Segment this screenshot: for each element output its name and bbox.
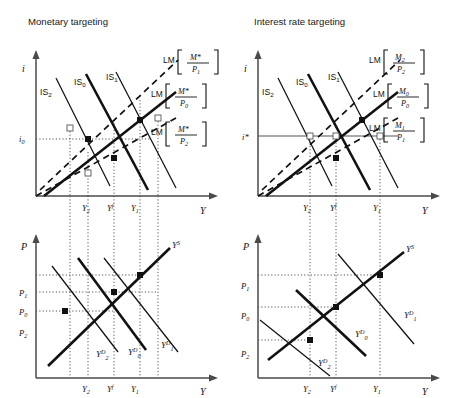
lm-label-P1: LM M* P1 [163, 50, 218, 75]
aggregate-demand-curve-0 [296, 290, 366, 356]
lm-denominator: P2 [396, 65, 405, 75]
aggregate-demand-curve-0 [78, 258, 146, 350]
equilibrium-marker-upper [137, 272, 143, 278]
bracket-right [424, 84, 428, 108]
demand-label-2: YD2 [96, 349, 108, 362]
svg-text:YD1: YD1 [161, 340, 173, 353]
bracket-left [384, 50, 388, 74]
i0-sub: 0 [21, 139, 24, 145]
svg-text:YD0: YD0 [355, 329, 367, 342]
axes-bottom-right [254, 234, 440, 382]
lm-text: LM [369, 123, 381, 133]
tick-P1: P1 [18, 288, 27, 299]
lm-label-M2P2: LM M2 P2 [369, 50, 424, 75]
demand-label-0: YD0 [355, 329, 367, 342]
x-axis-label: Y [200, 386, 207, 397]
y-axis-arrow [32, 234, 39, 243]
lm-denominator: P1 [191, 65, 200, 75]
panel-title-monetary-targeting: Monetary targeting [28, 16, 108, 27]
y-tick-i0: i0 [19, 134, 24, 145]
svg-text:i*: i* [242, 132, 249, 142]
guides-top-left [36, 100, 158, 196]
x-ticks-top-left: Y2 Yf Y1 [82, 203, 139, 214]
bracket-right [202, 84, 206, 108]
lm-numerator: M* [177, 87, 190, 96]
tick-Y2: Y2 [303, 384, 311, 395]
lm-numerator: M1 [394, 121, 405, 131]
equilibrium-marker-P1 [377, 272, 383, 278]
tick-P2: P2 [18, 328, 27, 339]
lm-text: LM [163, 55, 175, 65]
y-axis-label: i [244, 63, 247, 74]
lm-denominator: P0 [179, 99, 188, 109]
equilibrium-marker-open-left [307, 133, 313, 139]
tick-P0: P0 [18, 307, 27, 318]
svg-text:IS2: IS2 [40, 87, 52, 98]
is-curve-2 [56, 78, 110, 186]
x-axis-arrow [431, 192, 440, 199]
equilibrium-marker-open-low [85, 170, 91, 176]
svg-text:IS0: IS0 [74, 77, 86, 88]
tick-Yf: Yf [330, 384, 338, 394]
svg-text:YD0: YD0 [128, 347, 140, 360]
y-axis-arrow [254, 234, 261, 243]
y-axis-label: P [242, 241, 249, 252]
tick-Y1: Y1 [131, 203, 139, 214]
equilibrium-marker-filled-right [137, 117, 143, 123]
lm-curve-M0P0-solid [266, 92, 398, 196]
x-ticks-top-right: Y2 Yf Y1 [303, 203, 381, 214]
lm-label-P2: LM M* P2 [151, 122, 206, 147]
axes-top-left [32, 50, 218, 200]
equilibrium-marker-filled-right [359, 117, 365, 123]
panel-top-left: Monetary targeting i Y i0 [19, 16, 218, 216]
tick-Yf: Yf [330, 203, 338, 213]
economics-figure: Monetary targeting i Y i0 [0, 0, 458, 398]
lm-denominator: P0 [400, 99, 409, 109]
is-text: IS [106, 72, 114, 82]
lm-numerator: M* [177, 125, 190, 134]
panel-top-right: Interest rate targeting i Y i* [242, 16, 440, 216]
is-curve-0 [308, 74, 370, 190]
is-sub: 1 [114, 76, 118, 83]
is-curve-2 [278, 78, 332, 186]
lm-curve-P0-solid [44, 92, 176, 196]
p-sub: 2 [185, 141, 188, 147]
aggregate-demand-curve-1 [338, 254, 414, 344]
tick-Y2: Y2 [82, 384, 90, 395]
bracket-right [202, 122, 206, 146]
equilibrium-marker-open-right [377, 133, 383, 139]
equilibrium-marker-open-mid [333, 133, 339, 139]
aggregate-supply-curve [48, 248, 170, 366]
bracket-right [420, 118, 424, 142]
lm-numerator: M* [189, 53, 202, 62]
panel-title-interest-rate-targeting: Interest rate targeting [254, 16, 345, 27]
svg-text:YS: YS [172, 240, 180, 250]
equilibrium-marker-filled-mid [333, 155, 339, 161]
x-axis-label: Y [422, 205, 429, 216]
lm-text: LM [373, 89, 385, 99]
istar-sup: * [244, 132, 249, 142]
lm-text: LM [151, 127, 163, 137]
x-axis-label: Y [422, 386, 429, 397]
equilibrium-marker-P2 [307, 337, 313, 343]
lm-numerator: M0 [398, 87, 409, 97]
equilibrium-marker-P0 [62, 308, 68, 314]
panel-bottom-left: P Y P1 P0 P2 [18, 196, 218, 397]
is-label-2: IS2 [262, 87, 274, 98]
svg-text:i0: i0 [19, 134, 24, 145]
svg-text:YS: YS [406, 244, 414, 254]
is-text: IS [74, 77, 82, 87]
lm-numerator: M2 [394, 53, 405, 63]
is-sub: 2 [48, 91, 52, 98]
bracket-right [420, 50, 424, 74]
lm-denominator: P1 [396, 133, 405, 143]
equilibrium-marker-open-left [67, 125, 73, 131]
is-text: IS [40, 87, 48, 97]
lm-text: LM [369, 55, 381, 65]
equilibrium-marker-P0 [333, 304, 339, 310]
demand-label-1: YD1 [161, 340, 173, 353]
supply-curve-label: YS [406, 244, 414, 254]
y-axis-arrow [32, 50, 39, 59]
y-ticks-bottom-left: P1 P0 P2 [18, 288, 27, 339]
x-axis-arrow [209, 374, 218, 381]
